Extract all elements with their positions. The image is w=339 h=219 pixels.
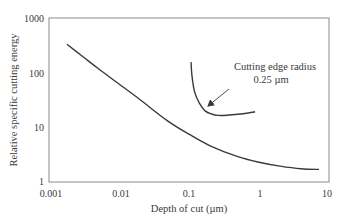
x-axis-label: Depth of cut (µm) [151, 203, 228, 215]
x-tick-label: 10 [322, 188, 332, 199]
annotation: Cutting edge radius 0.25 µm [208, 61, 316, 106]
plot-frame [49, 18, 329, 182]
x-tick-label: 0.01 [112, 188, 130, 199]
y-tick-label: 100 [29, 68, 44, 79]
y-axis-label: Relative specific cutting energy [8, 33, 19, 167]
annotation-text-line1: Cutting edge radius [234, 61, 316, 72]
x-axis: 0.001 0.01 0.1 1 10 Depth of cut (µm) [40, 188, 332, 215]
x-tick-label: 0.1 [183, 188, 196, 199]
y-tick-label: 1000 [24, 13, 44, 24]
annotation-arrow [208, 89, 229, 106]
y-tick-label: 1 [39, 176, 44, 187]
chart: 1000 100 10 1 Relative specific cutting … [0, 0, 339, 219]
annotation-text-line2: 0.25 µm [253, 74, 288, 85]
y-tick-label: 10 [34, 122, 44, 133]
x-tick-label: 1 [258, 188, 263, 199]
y-axis: 1000 100 10 1 Relative specific cutting … [8, 13, 44, 187]
x-tick-label: 0.001 [40, 188, 63, 199]
